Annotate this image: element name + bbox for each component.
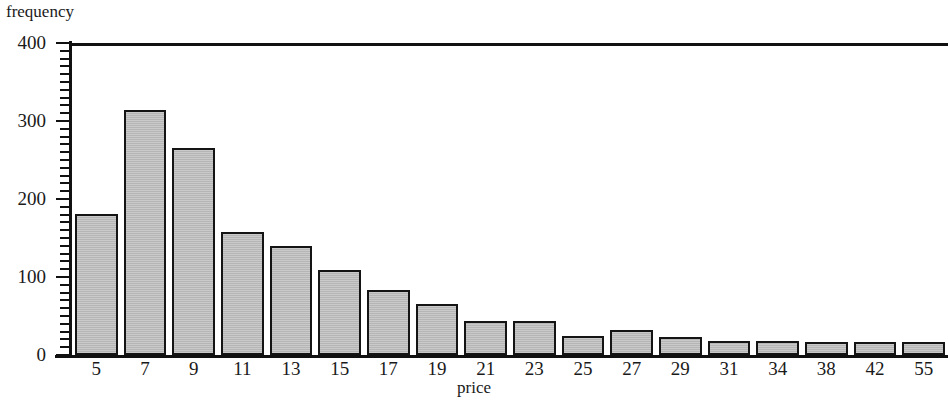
y-axis-minor-tick: [60, 65, 70, 67]
x-axis-tick-label: 25: [559, 358, 608, 380]
y-axis-minor-tick: [60, 73, 70, 75]
bar: [124, 110, 167, 355]
bar: [75, 214, 118, 355]
y-axis-minor-tick: [60, 151, 70, 153]
bar-slot: [169, 43, 218, 355]
y-axis-minor-tick: [60, 206, 70, 208]
x-axis-tick-label: 21: [461, 358, 510, 380]
x-axis-tick-label: 9: [169, 358, 218, 380]
bar: [172, 148, 215, 355]
y-axis-minor-tick: [60, 97, 70, 99]
y-axis-minor-tick: [60, 284, 70, 286]
x-axis-tick-label: 38: [802, 358, 851, 380]
y-axis-major-tick: [56, 198, 70, 200]
x-axis-title: price: [0, 378, 948, 398]
bar-slot: [705, 43, 754, 355]
y-axis-minor-tick: [60, 338, 70, 340]
x-axis-tick-label: 23: [510, 358, 559, 380]
y-axis-minor-tick: [60, 182, 70, 184]
bar-slot: [510, 43, 559, 355]
y-axis-minor-tick: [60, 268, 70, 270]
x-axis-tick-label: 17: [364, 358, 413, 380]
y-axis-minor-tick: [60, 143, 70, 145]
x-axis-tick-label: 34: [753, 358, 802, 380]
bar-slot: [607, 43, 656, 355]
bar: [805, 342, 848, 355]
y-axis-tick-label: 0: [37, 345, 47, 364]
x-axis-tick-label: 27: [607, 358, 656, 380]
y-axis-minor-tick: [60, 214, 70, 216]
y-axis-minor-tick: [60, 331, 70, 333]
y-axis-title: frequency: [6, 2, 74, 22]
bar-slot: [656, 43, 705, 355]
bar-slot: [218, 43, 267, 355]
histogram-chart: frequency 0100200300400 5791113151719212…: [0, 0, 948, 403]
y-axis-tick-label: 300: [18, 111, 47, 130]
y-axis-minor-tick: [60, 190, 70, 192]
y-axis-minor-tick: [60, 229, 70, 231]
x-axis-tick-label: 11: [218, 358, 267, 380]
y-axis-minor-tick: [60, 245, 70, 247]
bar: [659, 337, 702, 355]
y-axis-tick-label: 200: [18, 189, 47, 208]
bar-slot: [899, 43, 948, 355]
bar: [902, 342, 945, 355]
y-axis-minor-tick: [60, 159, 70, 161]
y-axis-major-tick: [56, 42, 70, 44]
bar-slot: [267, 43, 316, 355]
bar: [416, 304, 459, 355]
x-axis-tick-label: 5: [72, 358, 121, 380]
bar: [610, 330, 653, 355]
y-axis-minor-tick: [60, 292, 70, 294]
y-axis-minor-tick: [60, 81, 70, 83]
bar-slot: [559, 43, 608, 355]
plot-area: [72, 43, 948, 355]
bar: [221, 232, 264, 355]
bar-slot: [72, 43, 121, 355]
x-axis-tick-label: 31: [705, 358, 754, 380]
bar: [756, 341, 799, 355]
y-axis-minor-tick: [60, 299, 70, 301]
y-axis-tick-label: 400: [18, 33, 47, 52]
x-axis-tick-label: 13: [267, 358, 316, 380]
y-axis-minor-tick: [60, 167, 70, 169]
x-axis-tick-label: 29: [656, 358, 705, 380]
bar: [464, 321, 507, 355]
bar-slot: [753, 43, 802, 355]
y-axis-minor-tick: [60, 237, 70, 239]
y-axis-minor-tick: [60, 136, 70, 138]
y-axis-minor-tick: [60, 253, 70, 255]
x-axis-tick-label: 55: [899, 358, 948, 380]
bar: [367, 290, 410, 355]
y-axis-minor-tick: [60, 112, 70, 114]
bar: [562, 336, 605, 355]
y-axis-minor-tick: [60, 315, 70, 317]
bar: [854, 342, 897, 355]
bar-slot: [461, 43, 510, 355]
bar-series: [72, 43, 948, 355]
y-axis-minor-tick: [60, 221, 70, 223]
bar: [270, 246, 313, 355]
y-axis-major-tick: [56, 276, 70, 278]
bar: [318, 270, 361, 355]
y-axis-minor-tick: [60, 323, 70, 325]
x-axis-tick-label: 15: [315, 358, 364, 380]
y-axis-minor-tick: [60, 346, 70, 348]
y-axis-major-tick: [56, 354, 70, 356]
y-axis-minor-tick: [60, 307, 70, 309]
y-axis-tick-label: 100: [18, 267, 47, 286]
y-axis-minor-tick: [60, 50, 70, 52]
bar-slot: [851, 43, 900, 355]
y-axis-minor-tick: [60, 58, 70, 60]
bar-slot: [802, 43, 851, 355]
y-axis-minor-tick: [60, 89, 70, 91]
bar-slot: [364, 43, 413, 355]
bar: [513, 321, 556, 355]
y-axis-minor-tick: [60, 175, 70, 177]
x-axis-tick-label: 19: [413, 358, 462, 380]
x-axis-tick-label: 7: [121, 358, 170, 380]
x-axis-tick-label: 42: [851, 358, 900, 380]
bar: [708, 341, 751, 355]
bar-slot: [413, 43, 462, 355]
y-axis-minor-tick: [60, 260, 70, 262]
